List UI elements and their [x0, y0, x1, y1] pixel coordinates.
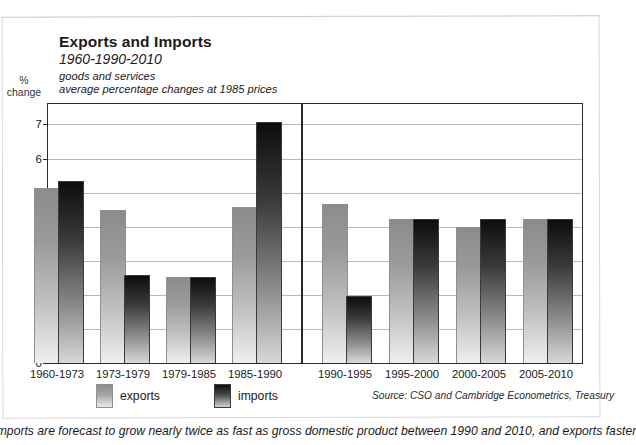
bar-exports-1990-1995: [322, 204, 348, 363]
y-tick-label-6: 6: [36, 153, 42, 165]
y-axis-unit-change: change: [0, 86, 52, 98]
gridline-5: [48, 193, 582, 194]
bar-exports-1979-1985: [166, 277, 192, 363]
y-axis-unit-label: % change: [0, 74, 52, 98]
y-tick-mark-6: [43, 159, 48, 160]
bar-imports-1960-1973: [58, 181, 84, 363]
legend-swatch-imports-icon: [214, 384, 231, 408]
x-axis-label-1960-1973: 1960-1973: [30, 368, 84, 380]
chart-plot-area: 01234567: [47, 103, 583, 364]
bar-imports-1973-1979: [124, 275, 150, 363]
bar-exports-2000-2005: [456, 227, 482, 363]
chart-note-price-basis: average percentage changes at 1985 price…: [59, 83, 479, 96]
legend-item-imports: imports: [214, 384, 278, 408]
bar-exports-2005-2010: [523, 219, 549, 363]
source-note: Source: CSO and Cambridge Econometrics, …: [372, 390, 614, 401]
history-forecast-divider: [301, 103, 303, 364]
bar-exports-1960-1973: [34, 188, 60, 363]
legend-label-imports: imports: [238, 389, 278, 403]
bar-exports-1995-2000: [389, 219, 415, 363]
title-block: Exports and Imports 1960-1990-2010 goods…: [59, 33, 479, 95]
y-tick-mark-7: [43, 124, 48, 125]
gridline-7: [48, 124, 582, 125]
chart-subtitle: 1960-1990-2010: [59, 51, 479, 67]
legend-swatch-exports-icon: [96, 384, 113, 408]
bar-imports-1985-1990: [256, 122, 282, 363]
x-axis-label-2000-2005: 2000-2005: [452, 368, 506, 380]
bar-imports-1979-1985: [190, 277, 216, 363]
y-tick-mark-0: [43, 363, 48, 364]
x-axis-label-1990-1995: 1990-1995: [318, 368, 372, 380]
bar-exports-1973-1979: [100, 210, 126, 363]
bar-imports-1990-1995: [346, 296, 372, 363]
gridline-6: [48, 159, 582, 160]
x-axis-label-1985-1990: 1985-1990: [228, 368, 282, 380]
legend-item-exports: exports: [96, 384, 160, 408]
x-axis-label-1995-2000: 1995-2000: [385, 368, 439, 380]
x-axis-label-1979-1985: 1979-1985: [162, 368, 216, 380]
bar-imports-2005-2010: [547, 219, 573, 363]
bar-imports-2000-2005: [480, 219, 506, 363]
chart-legend: exports imports: [96, 384, 278, 408]
x-axis-label-1973-1979: 1973-1979: [96, 368, 150, 380]
chart-plot-inner: 01234567: [48, 104, 582, 363]
chart-note-goods-and-services: goods and services: [59, 70, 479, 83]
x-axis-label-2005-2010: 2005-2010: [519, 368, 573, 380]
legend-label-exports: exports: [120, 389, 160, 403]
y-axis-unit-percent: %: [0, 74, 52, 86]
bar-imports-1995-2000: [413, 219, 439, 363]
chart-title: Exports and Imports: [59, 33, 479, 50]
y-tick-label-7: 7: [36, 118, 42, 130]
figure-caption: imports are forecast to grow nearly twic…: [0, 424, 634, 438]
bar-exports-1985-1990: [232, 207, 258, 363]
